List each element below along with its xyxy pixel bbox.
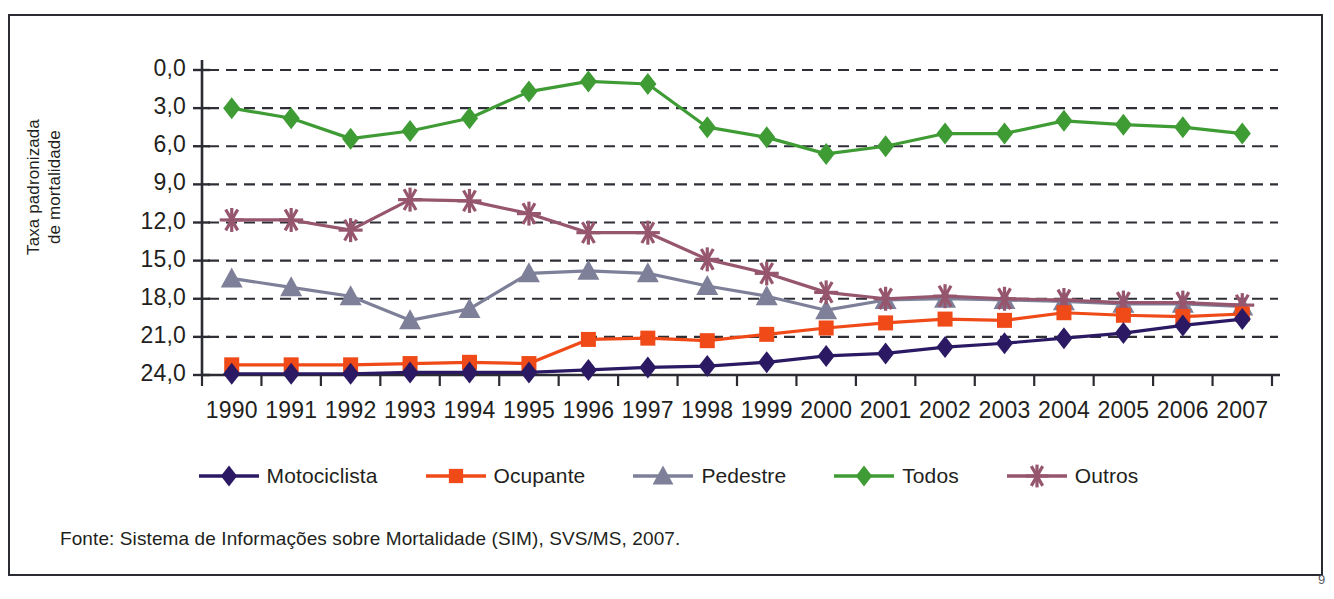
marker-diamond: [936, 336, 953, 358]
marker-square: [878, 315, 893, 330]
marker-diamond: [818, 345, 835, 367]
marker-diamond: [520, 81, 537, 103]
y-tick-label: 18,0: [116, 284, 186, 311]
series-line: [232, 81, 1243, 153]
legend-item-ocupante[interactable]: Ocupante: [424, 463, 586, 489]
marker-diamond: [1055, 110, 1072, 132]
marker-diamond: [283, 107, 300, 129]
source-note: Fonte: Sistema de Informações sobre Mort…: [60, 528, 680, 550]
y-tick-label: 6,0: [116, 131, 186, 158]
series-todos: [223, 70, 1251, 164]
y-axis-title: Taxa padronizada de mortalidade: [23, 87, 65, 287]
square-icon: [424, 463, 488, 489]
legend-label: Pedestre: [701, 464, 786, 488]
marker-square: [759, 327, 774, 342]
y-tick-label: 21,0: [116, 322, 186, 349]
chart-plot-area: [10, 16, 1325, 578]
marker-diamond: [1115, 322, 1132, 344]
marker-asterisk: [755, 261, 779, 285]
marker-asterisk: [636, 221, 660, 245]
marker-square: [448, 469, 462, 483]
marker-asterisk: [576, 221, 600, 245]
marker-asterisk: [814, 280, 838, 304]
marker-square: [997, 313, 1012, 328]
diamond-icon: [832, 463, 896, 489]
marker-diamond: [580, 359, 597, 381]
marker-asterisk: [398, 188, 422, 212]
series-line: [232, 313, 1243, 365]
marker-asterisk: [220, 208, 244, 232]
line-chart-svg: [10, 16, 1325, 578]
marker-diamond: [758, 351, 775, 373]
marker-square: [640, 331, 655, 346]
asterisk-icon: [1005, 463, 1069, 489]
series-pedestre: [221, 260, 1254, 330]
marker-diamond: [401, 120, 418, 142]
legend-item-pedestre[interactable]: Pedestre: [631, 463, 786, 489]
marker-asterisk: [1025, 465, 1048, 488]
y-axis-title-line1: Taxa padronizada: [23, 87, 44, 287]
marker-square: [819, 320, 834, 335]
series-ocupante: [224, 305, 1250, 372]
marker-asterisk: [458, 189, 482, 213]
marker-square: [581, 332, 596, 347]
marker-diamond: [1174, 116, 1191, 138]
marker-diamond: [936, 123, 953, 145]
marker-diamond: [877, 135, 894, 157]
marker-asterisk: [695, 247, 719, 271]
y-tick-label: 0,0: [116, 55, 186, 82]
marker-diamond: [1055, 327, 1072, 349]
legend-item-outros[interactable]: Outros: [1005, 463, 1139, 489]
marker-diamond: [996, 123, 1013, 145]
marker-diamond: [856, 466, 872, 487]
y-tick-label: 15,0: [116, 246, 186, 273]
x-tick-label: 2007: [1207, 397, 1277, 424]
legend-label: Motociclista: [267, 464, 378, 488]
legend-item-todos[interactable]: Todos: [832, 463, 959, 489]
series-motociclista: [223, 308, 1251, 385]
marker-diamond: [461, 107, 478, 129]
marker-square: [938, 312, 953, 327]
figure-frame: Taxa padronizada de mortalidade 24,021,0…: [8, 14, 1323, 576]
diamond-icon: [197, 463, 261, 489]
marker-diamond: [996, 332, 1013, 354]
y-axis-title-line2: de mortalidade: [44, 87, 65, 287]
marker-diamond: [580, 70, 597, 92]
marker-diamond: [223, 97, 240, 119]
series-line: [232, 200, 1243, 305]
marker-square: [1056, 305, 1071, 320]
gridlines: [208, 70, 1278, 337]
marker-diamond: [1115, 114, 1132, 136]
marker-triangle: [459, 298, 481, 318]
marker-triangle: [221, 267, 243, 287]
marker-square: [700, 333, 715, 348]
marker-diamond: [877, 342, 894, 364]
legend-label: Todos: [902, 464, 959, 488]
triangle-icon: [631, 463, 695, 489]
marker-asterisk: [279, 208, 303, 232]
marker-diamond: [1234, 123, 1251, 145]
y-tick-label: 9,0: [116, 169, 186, 196]
marker-diamond: [758, 126, 775, 148]
marker-diamond: [699, 116, 716, 138]
y-tick-label: 24,0: [116, 360, 186, 387]
legend-item-motociclista[interactable]: Motociclista: [197, 463, 378, 489]
marker-diamond: [220, 466, 236, 487]
legend-label: Ocupante: [494, 464, 586, 488]
chart-legend: MotociclistaOcupantePedestreTodosOutros: [10, 463, 1325, 489]
page-corner-mark: 9: [1318, 572, 1325, 587]
marker-diamond: [639, 73, 656, 95]
legend-label: Outros: [1075, 464, 1139, 488]
y-tick-label: 12,0: [116, 208, 186, 235]
y-tick-label: 3,0: [116, 93, 186, 120]
marker-square: [1116, 308, 1131, 323]
